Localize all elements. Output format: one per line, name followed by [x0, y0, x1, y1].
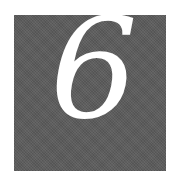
chapter-number-tile: 6 [14, 15, 166, 171]
chapter-numeral: 6 [44, 15, 144, 139]
